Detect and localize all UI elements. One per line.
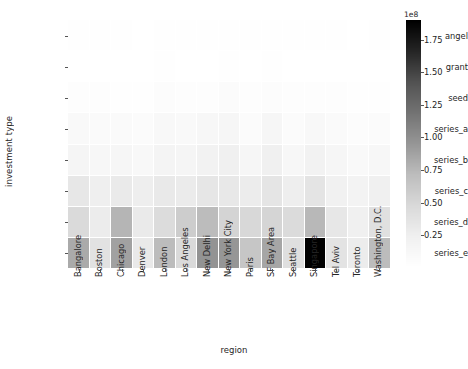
heatmap-cell	[197, 20, 218, 50]
heatmap-cell	[90, 20, 111, 50]
heatmap-cell	[240, 113, 261, 143]
heatmap-cell	[68, 113, 89, 143]
heatmap-cell	[154, 176, 175, 206]
heatmap-cell	[90, 207, 111, 237]
heatmap-cell	[305, 207, 326, 237]
heatmap-cell	[219, 51, 240, 81]
heatmap-cell	[326, 82, 347, 112]
colorbar-tick-1.50: 1.50	[424, 67, 442, 77]
heatmap-cell	[369, 51, 390, 81]
colorbar-tick-0.50: 0.50	[424, 198, 442, 208]
x-tick-toronto: Toronto	[353, 246, 361, 277]
heatmap-cell	[176, 145, 197, 175]
heatmap-cell	[90, 113, 111, 143]
heatmap-cell	[219, 113, 240, 143]
heatmap-cell	[68, 82, 89, 112]
heatmap-cell	[283, 51, 304, 81]
heatmap-cell	[326, 113, 347, 143]
heatmap-cell	[219, 82, 240, 112]
colorbar-tick-mark	[421, 170, 424, 171]
heatmap-cell	[133, 113, 154, 143]
colorbar-tick-mark	[421, 203, 424, 204]
heatmap-figure: investment type angelgrantseedseries_ase…	[0, 0, 468, 369]
heatmap-cell	[154, 51, 175, 81]
colorbar-tick-1.00: 1.00	[424, 132, 442, 142]
heatmap-cell	[326, 207, 347, 237]
heatmap-cell	[68, 176, 89, 206]
heatmap-cell	[262, 20, 283, 50]
heatmap-cell	[154, 82, 175, 112]
heatmap-cell	[133, 145, 154, 175]
heatmap-cell	[154, 113, 175, 143]
colorbar-gradient	[406, 20, 421, 268]
heatmap-cell	[262, 82, 283, 112]
heatmap-cell	[154, 145, 175, 175]
heatmap-cell	[305, 20, 326, 50]
heatmap-cell	[326, 145, 347, 175]
heatmap-cell	[369, 82, 390, 112]
x-tick-seattle: Seattle	[288, 248, 296, 277]
colorbar-tick-mark	[421, 105, 424, 106]
heatmap-cell	[111, 51, 132, 81]
heatmap-cell	[111, 176, 132, 206]
heatmap-cell	[154, 20, 175, 50]
heatmap-cell	[240, 207, 261, 237]
heatmap-cell	[262, 145, 283, 175]
x-tick-denver: Denver	[138, 247, 146, 277]
heatmap-cell	[176, 20, 197, 50]
heatmap-cell	[240, 82, 261, 112]
heatmap-cell	[68, 145, 89, 175]
heatmap-cell	[111, 82, 132, 112]
heatmap-cell	[219, 20, 240, 50]
x-tick-mark	[293, 269, 294, 272]
heatmap-cell	[326, 20, 347, 50]
heatmap-cell	[133, 82, 154, 112]
colorbar-tick-1.75: 1.75	[424, 35, 442, 45]
x-tick-mark	[358, 269, 359, 272]
heatmap-cell	[305, 145, 326, 175]
x-tick-mark	[272, 269, 273, 272]
heatmap-cell	[90, 51, 111, 81]
heatmap-cell	[197, 51, 218, 81]
heatmap-cell	[133, 207, 154, 237]
heatmap-cell	[240, 176, 261, 206]
x-tick-mark	[229, 269, 230, 272]
colorbar-tick-mark	[421, 137, 424, 138]
heatmap-cell	[90, 82, 111, 112]
heatmap-cell	[133, 176, 154, 206]
x-tick-london: London	[160, 247, 168, 277]
x-tick-mark	[100, 269, 101, 272]
colorbar-tick-0.25: 0.25	[424, 230, 442, 240]
heatmap-cell	[197, 176, 218, 206]
heatmap-cell	[240, 20, 261, 50]
heatmap-cell	[219, 145, 240, 175]
heatmap-cell	[68, 51, 89, 81]
heatmap-cell	[68, 20, 89, 50]
heatmap-cell	[369, 145, 390, 175]
colorbar-offset-label: 1e8	[404, 10, 418, 19]
x-tick-washington-d-c: Washington, D.C.	[374, 206, 382, 278]
heatmap-cell	[219, 176, 240, 206]
heatmap-cell	[348, 51, 369, 81]
x-tick-mark	[122, 269, 123, 272]
x-tick-mark	[315, 269, 316, 272]
heatmap-cell	[369, 20, 390, 50]
heatmap-cell	[369, 176, 390, 206]
heatmap-cell	[348, 176, 369, 206]
heatmap-cell	[348, 207, 369, 237]
heatmap-cell	[283, 145, 304, 175]
heatmap-cell	[176, 176, 197, 206]
heatmap-cell	[283, 113, 304, 143]
x-tick-mark	[186, 269, 187, 272]
heatmap-cell	[90, 145, 111, 175]
heatmap-cell	[283, 176, 304, 206]
heatmap-cell	[369, 113, 390, 143]
heatmap-cell	[133, 51, 154, 81]
heatmap-cell	[305, 51, 326, 81]
heatmap-cell	[197, 82, 218, 112]
heatmap-cell	[348, 113, 369, 143]
heatmap-cell	[262, 176, 283, 206]
x-axis-label: region	[0, 345, 468, 355]
heatmap-cell	[197, 113, 218, 143]
heatmap-cell	[262, 113, 283, 143]
